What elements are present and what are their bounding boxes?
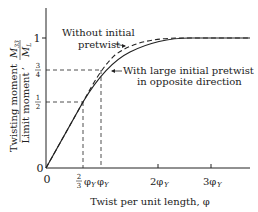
- svg-text:Y: Y: [164, 181, 170, 189]
- x-tick-3: 3φ Y: [203, 176, 223, 189]
- svg-text:,: ,: [14, 67, 25, 70]
- y-tick-0: 0: [37, 162, 44, 175]
- x-tick-1: φ Y: [97, 176, 110, 189]
- svg-text:1: 1: [36, 94, 40, 102]
- annotation-without-pretwist-2: pretwist: [78, 39, 120, 50]
- svg-text:2φ: 2φ: [150, 176, 163, 187]
- svg-text:3: 3: [36, 62, 40, 70]
- svg-text:Y: Y: [104, 181, 110, 189]
- svg-text:3φ: 3φ: [203, 176, 216, 187]
- svg-text:4: 4: [36, 71, 41, 79]
- x-tick-0: 0: [44, 173, 51, 186]
- svg-text:Y: Y: [217, 181, 223, 189]
- svg-text:Twisting moment: Twisting moment: [8, 64, 19, 152]
- svg-text:M33: M33: [8, 40, 20, 59]
- curve-with-pretwist: [46, 38, 250, 168]
- annotation-with-pretwist-2: in opposite direction: [137, 76, 242, 87]
- curve-without-pretwist: [46, 38, 250, 168]
- svg-text:2: 2: [36, 103, 40, 111]
- svg-text:3: 3: [77, 182, 81, 190]
- annotation-without-pretwist-1: Without initial: [62, 27, 135, 38]
- chart: 1 3 4 1 2 0 0 2 3 φ Y φ Y 2φ Y 3φ Y: [0, 0, 258, 212]
- y-axis-title: Twisting moment Limit moment , M33 ML: [8, 40, 32, 152]
- x-tick-2: 2φ Y: [150, 176, 170, 189]
- svg-text:φ: φ: [84, 176, 91, 187]
- svg-text:Limit moment: Limit moment: [20, 72, 31, 143]
- y-tick-1: 1: [34, 32, 41, 45]
- y-tick-1-2: 1 2: [35, 94, 41, 111]
- y-tick-3-4: 3 4: [35, 62, 41, 79]
- x-axis-title: Twist per unit length, φ: [90, 196, 210, 207]
- x-tick-2-3: 2 3 φ Y: [76, 173, 97, 190]
- svg-text:ML: ML: [20, 43, 32, 58]
- svg-text:φ: φ: [97, 176, 104, 187]
- annotation-with-pretwist-1: With large initial pretwist: [123, 65, 254, 76]
- svg-text:2: 2: [77, 173, 81, 181]
